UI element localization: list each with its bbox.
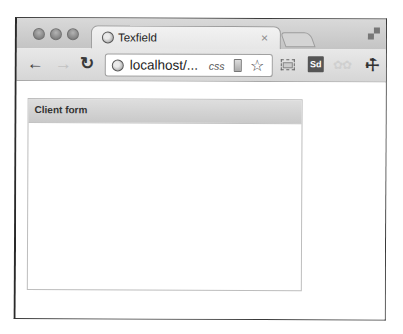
back-arrow-icon[interactable]: ← [27, 54, 44, 74]
close-window-button[interactable] [33, 28, 45, 40]
browser-window: Texfield × ← → ↻ localhost/... css ☆ Sd … [14, 17, 387, 321]
close-tab-icon[interactable]: × [261, 31, 268, 45]
panel-header: Client form [29, 99, 302, 124]
tab-texfield[interactable]: Texfield × [91, 25, 281, 50]
faded-extension-icon[interactable]: ✿✿ [333, 58, 351, 72]
reload-icon[interactable]: ↻ [80, 54, 94, 74]
globe-icon [112, 59, 124, 71]
sd-extension-icon[interactable]: Sd [308, 56, 324, 72]
title-bar: Texfield × [17, 18, 386, 50]
screen-capture-icon[interactable] [281, 59, 295, 70]
capture-frame [283, 62, 293, 68]
new-tab-button[interactable] [280, 32, 315, 47]
client-form-panel: Client form [27, 98, 303, 291]
wrench-icon[interactable]: ⚒ [360, 53, 383, 76]
page-action-icon[interactable] [234, 59, 242, 72]
minimize-window-button[interactable] [50, 28, 62, 40]
tab-title: Texfield [118, 31, 157, 43]
toolbar: ← → ↻ localhost/... css ☆ Sd ✿✿ ⚒ [17, 48, 386, 83]
address-bar[interactable]: localhost/... css ☆ [105, 53, 273, 77]
bookmark-star-icon[interactable]: ☆ [250, 56, 264, 75]
zoom-window-button[interactable] [67, 28, 79, 40]
address-url[interactable]: localhost/... [130, 58, 198, 73]
panel-title: Client form [35, 104, 88, 115]
fullscreen-icon[interactable] [368, 28, 380, 40]
forward-arrow-icon[interactable]: → [55, 54, 72, 74]
page-content: Client form [16, 81, 386, 320]
css-indicator[interactable]: css [209, 60, 225, 72]
globe-icon [102, 31, 114, 43]
